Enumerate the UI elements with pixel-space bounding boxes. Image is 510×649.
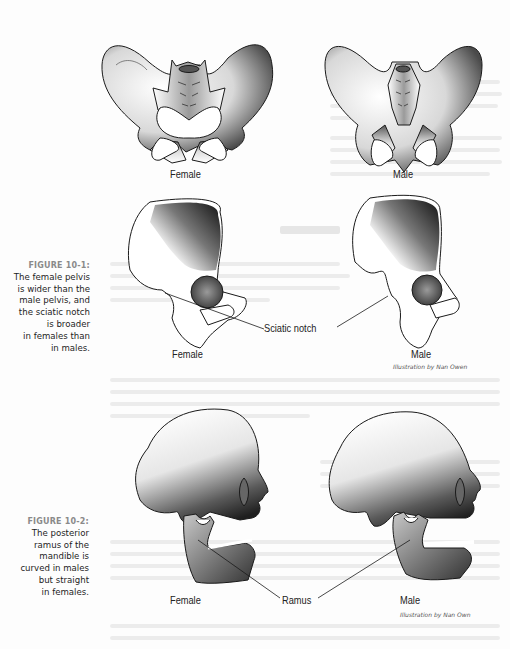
figure-1-caption: FIGURE 10-1: The female pelvis is wider … (0, 260, 90, 354)
figure-1-number: FIGURE 10-1: (0, 260, 90, 272)
figure-2-label-female: Female (170, 594, 201, 606)
female-hip-lateral (128, 199, 246, 348)
figure-2-caption: FIGURE 10-2: The posterior ramus of the … (0, 516, 89, 599)
male-skull (329, 412, 480, 580)
male-pelvis-front (325, 46, 482, 172)
figure-2-label-male: Male (400, 594, 420, 606)
figure-1-top-label-male: Male (393, 168, 413, 180)
figure-1-top-label-female: Female (170, 168, 201, 180)
figure-1-credit: Illustration by Nan Owen (393, 363, 467, 370)
figure-2-credit: Illustration by Nan Own (400, 611, 471, 618)
female-skull (136, 409, 268, 583)
callout-line-male-ramus (318, 540, 410, 598)
sciatic-notch-label: Sciatic notch (264, 322, 316, 334)
figure-1-bottom-label-female: Female (172, 348, 203, 360)
figure-1-bottom-label-male: Male (411, 348, 431, 360)
callout-line-male-notch (337, 296, 388, 327)
figure-2-number: FIGURE 10-2: (0, 516, 89, 528)
male-hip-lateral (353, 195, 460, 348)
ramus-label: Ramus (282, 594, 311, 606)
female-pelvis-front (102, 45, 273, 163)
book-page: FIGURE 10-1: The female pelvis is wider … (0, 0, 510, 649)
